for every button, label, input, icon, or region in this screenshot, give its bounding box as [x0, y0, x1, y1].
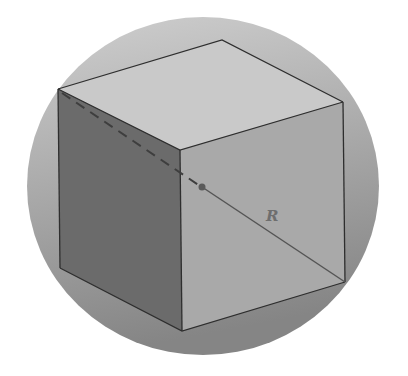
- cube-in-sphere-diagram: R: [0, 0, 408, 376]
- radius-label: R: [265, 207, 278, 225]
- sphere-center-dot: [199, 184, 206, 191]
